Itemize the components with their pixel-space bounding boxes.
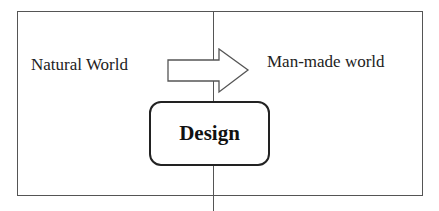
design-box: Design [149,101,270,166]
right-arrow-icon [167,48,251,94]
man-made-world-label: Man-made world [267,52,385,72]
natural-world-label: Natural World [31,55,128,75]
design-label: Design [179,121,240,146]
